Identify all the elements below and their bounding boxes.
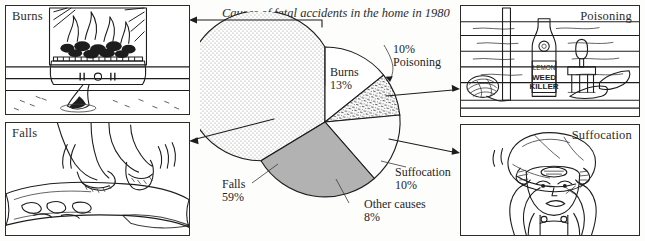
panel-falls-label: Falls xyxy=(12,126,37,141)
leader-poisoning-curve xyxy=(384,45,393,80)
pie-label-poisoning-name: Poisoning xyxy=(393,56,441,69)
pie-label-burns-value: 13% xyxy=(330,79,359,92)
bottle-label-line3: KILLER xyxy=(529,83,558,92)
connector-burns-arrowhead xyxy=(189,17,197,24)
pie-label-suffocation-name: Suffocation xyxy=(395,165,451,179)
pie-label-poisoning-value: 10% xyxy=(393,42,415,56)
pie-label-burns: Burns 13% xyxy=(330,66,359,93)
panel-burns: Burns xyxy=(5,5,190,115)
pie-label-other-causes: Other causes 8% xyxy=(364,198,426,225)
panel-poisoning: LEMON WEED KILLER xyxy=(460,5,640,117)
panel-suffocation: Suffocation xyxy=(460,124,640,236)
pie-label-falls-value: 59% xyxy=(222,191,245,204)
figure-root: Causes of fatal accidents in the home in… xyxy=(0,0,645,241)
pie-label-other-causes-name: Other causes xyxy=(364,197,426,211)
pie-label-poisoning: 10% Poisoning xyxy=(393,43,441,70)
connector-falls-arrowhead xyxy=(189,137,199,144)
panel-poisoning-label: Poisoning xyxy=(580,9,632,24)
panel-burns-label: Burns xyxy=(12,9,43,24)
pie-label-suffocation: Suffocation 10% xyxy=(395,166,451,193)
pie-label-falls: Falls 59% xyxy=(222,178,245,205)
pie-label-suffocation-value: 10% xyxy=(395,179,451,192)
bottle-label-line2: WEED xyxy=(532,73,556,82)
bottle-label-line1: LEMON xyxy=(533,64,556,71)
pie-label-other-causes-value: 8% xyxy=(364,211,426,224)
panel-falls: Falls xyxy=(5,122,190,236)
pie-label-falls-name: Falls xyxy=(222,177,245,191)
pie-label-burns-name: Burns xyxy=(330,65,359,79)
panel-suffocation-label: Suffocation xyxy=(572,128,632,143)
